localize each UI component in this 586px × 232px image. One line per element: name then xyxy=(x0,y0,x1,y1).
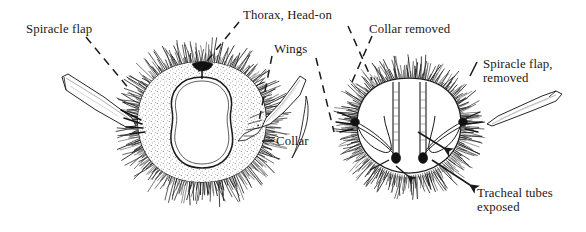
label-collar: Collar xyxy=(276,134,309,149)
left-specimen-thorax-intact xyxy=(62,38,306,207)
label-tracheal-tubes-line1: Tracheal tubes xyxy=(477,186,553,201)
spiracle-opening-right xyxy=(459,118,468,126)
thorax-outline-right xyxy=(357,78,461,173)
wing-between-specimens xyxy=(292,96,308,158)
tracheal-bulb-left xyxy=(391,153,400,164)
label-spiracle-flap: Spiracle flap xyxy=(26,22,92,37)
leader-wings-second xyxy=(316,58,334,132)
figure-illustration: Spiracle flap Thorax, Head-on Wings Coll… xyxy=(0,0,586,232)
spiracle-flap-detached-right xyxy=(487,91,562,126)
leader-spiracle-flap xyxy=(86,37,130,90)
label-thorax-head-on: Thorax, Head-on xyxy=(243,8,332,23)
tracheal-bulb-right xyxy=(418,153,427,164)
label-collar-removed: Collar removed xyxy=(369,22,450,37)
label-spiracle-flap-removed-line2: removed xyxy=(483,71,528,86)
label-wings: Wings xyxy=(274,42,307,57)
label-tracheal-tubes-line2: exposed xyxy=(477,200,520,215)
spiracle-opening-left xyxy=(351,118,360,126)
label-spiracle-flap-removed-line1: Spiracle flap, xyxy=(483,57,553,72)
leader-spiracle-flap-removed xyxy=(470,62,477,76)
